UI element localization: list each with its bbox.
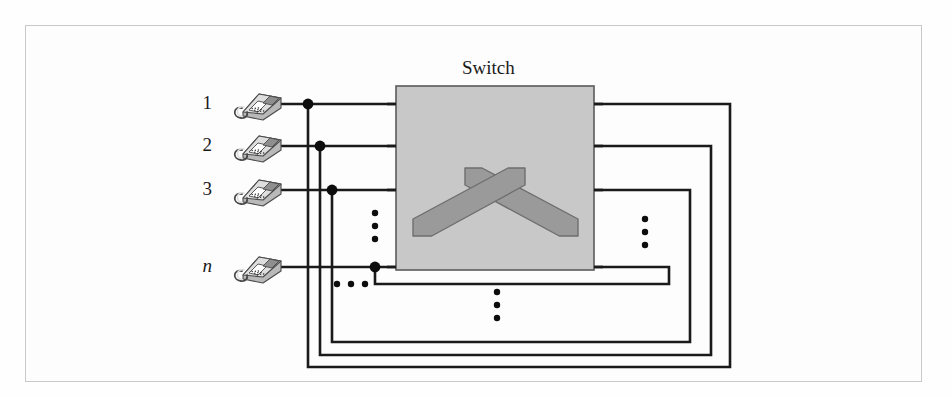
telephone-row-2-key	[257, 151, 259, 153]
telephone-row-1	[235, 94, 281, 120]
telephone-row-1-key	[263, 110, 265, 112]
telephone-row-2-key	[260, 153, 262, 155]
telephone-row-2-key	[254, 151, 256, 153]
telephone-row-3	[235, 180, 281, 206]
telephone-row-1-key	[251, 108, 253, 110]
telephone-row-1-key	[260, 111, 262, 113]
telephone-row-1-key	[258, 107, 260, 109]
telephone-row-n	[235, 257, 281, 283]
telephone-row-3-key	[257, 197, 259, 199]
telephone-row-n-key	[257, 272, 259, 274]
telephone-row-n-key	[263, 273, 265, 275]
telephone-row-n-key	[257, 274, 259, 276]
telephone-row-1-key	[255, 108, 256, 110]
telephone-row-n-key	[258, 270, 260, 272]
telephone-row-2-key	[258, 149, 260, 151]
telephone-row-n-key	[260, 274, 262, 276]
telephone-row-1-key	[257, 109, 259, 111]
telephone-row-2-key	[260, 151, 262, 153]
telephone-row-2-key	[255, 150, 256, 152]
telephone-row-3-key	[255, 194, 256, 196]
telephone-row-3-key	[260, 197, 262, 199]
telephone-row-2-key	[257, 153, 259, 155]
telephone-row-n-key	[251, 271, 253, 273]
switch-label: Switch	[462, 57, 515, 79]
row-label-2: 2	[190, 135, 212, 154]
row-label-n: n	[190, 256, 212, 275]
telephone-row-1-key	[257, 111, 259, 113]
telephone-row-1-key	[260, 109, 262, 111]
telephone-row-3-key	[263, 196, 265, 198]
telephone-row-2	[235, 136, 281, 162]
row-label-1: 1	[190, 93, 212, 112]
telephone-row-n-key	[255, 271, 256, 273]
telephone-row-3-key	[257, 195, 259, 197]
telephone-row-2-key	[251, 150, 253, 152]
figure-canvas: 1 2 3 n Switch	[0, 0, 951, 398]
telephone-row-n-key	[260, 272, 262, 274]
telephone-row-3-key	[260, 195, 262, 197]
telephone-row-3-key	[258, 193, 260, 195]
row-label-3: 3	[190, 179, 212, 198]
telephone-row-1-key	[254, 109, 256, 111]
telephone-row-2-key	[263, 152, 265, 154]
telephone-row-n-key	[254, 272, 256, 274]
telephone-row-3-key	[254, 195, 256, 197]
telephone-row-3-key	[251, 194, 253, 196]
